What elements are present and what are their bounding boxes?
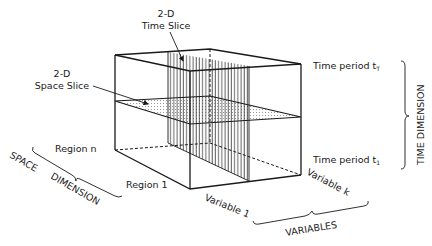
time-period-top-sub: T [375,65,380,72]
svg-text:Time period t1: Time period t1 [312,154,380,166]
variables-brace [253,201,368,224]
space-dimension-label-2: DIMENSION [49,170,102,207]
time-period-bottom-sub: 1 [376,159,380,166]
space-slice-label-line2: Space Slice [35,80,90,91]
time-period-top: Time period tT [312,60,380,72]
time-dimension-label: TIME DIMENSION [415,84,426,166]
variable-1-label: Variable 1 [203,192,251,220]
data-cube-diagram: 2-D Time Slice 2-D Space Slice Time peri… [0,0,432,246]
svg-text:Time period tT: Time period tT [312,60,380,72]
region-1-label: Region 1 [126,179,168,190]
space-slice-label: 2-D Space Slice [35,68,148,104]
space-slice-label-line1: 2-D [54,68,71,79]
time-period-bottom-label: Time period t [312,154,377,165]
time-period-bottom: Time period t1 [312,154,380,166]
time-slice-label-line2: Time Slice [141,20,191,31]
time-period-top-label: Time period t [312,60,377,71]
time-dimension-brace [401,61,409,169]
region-n-label: Region n [55,143,97,154]
variables-label: VARIABLES [285,219,338,238]
space-slice-plane [115,96,301,124]
time-slice-label-line1: 2-D [158,8,175,19]
variable-k-label: Variable k [305,166,352,198]
